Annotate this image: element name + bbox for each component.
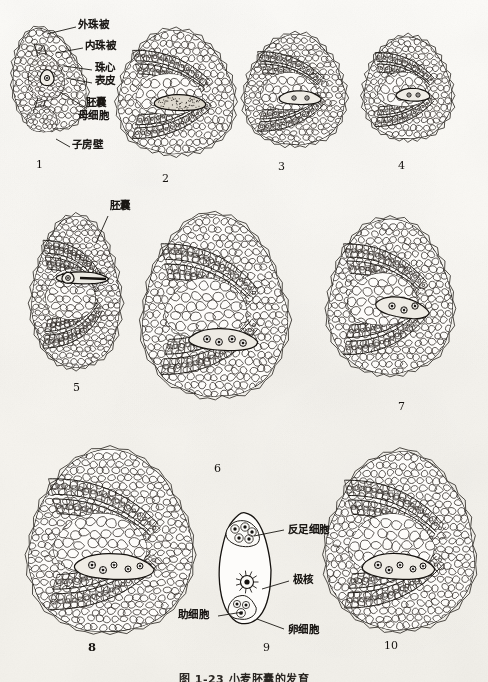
label-antipodal-cells: 反足细胞 — [288, 524, 330, 536]
label-epidermis: 表皮 — [95, 75, 116, 87]
label-polar-nuclei: 极核 — [293, 574, 314, 586]
figure-number-3: 3 — [278, 160, 285, 173]
label-inner-integument: 内珠被 — [85, 40, 116, 52]
label-egg-cell: 卵细胞 — [288, 624, 319, 636]
figure-number-4: 4 — [398, 159, 405, 172]
label-embryo-sac-mother-cell-line2: 母细胞 — [78, 110, 109, 122]
figure-number-2: 2 — [162, 172, 169, 185]
figure-number-10: 10 — [384, 639, 398, 652]
figure-number-1: 1 — [36, 158, 43, 171]
figure-number-9: 9 — [263, 641, 270, 654]
label-nucellus: 珠心 — [95, 62, 116, 74]
figure-number-5: 5 — [73, 381, 80, 394]
figure-number-8: 8 — [88, 640, 96, 654]
label-embryo-sac-mother-cell-line1: 胚囊 — [86, 97, 107, 109]
label-embryo-sac: 胚囊 — [110, 200, 131, 212]
label-synergids: 助细胞 — [178, 609, 209, 621]
figure-artwork — [0, 0, 488, 682]
label-ovary-wall: 子房壁 — [72, 139, 103, 151]
illustration-plate: 外珠被 内珠被 珠心 表皮 胚囊 母细胞 子房壁 胚囊 反足细胞 极核 助细胞 … — [0, 0, 488, 682]
figure-number-6: 6 — [214, 462, 221, 475]
label-outer-integument: 外珠被 — [78, 19, 109, 31]
plate-caption: 图 1-23 小麦胚囊的发育 — [0, 670, 488, 682]
figure-number-7: 7 — [398, 400, 405, 413]
